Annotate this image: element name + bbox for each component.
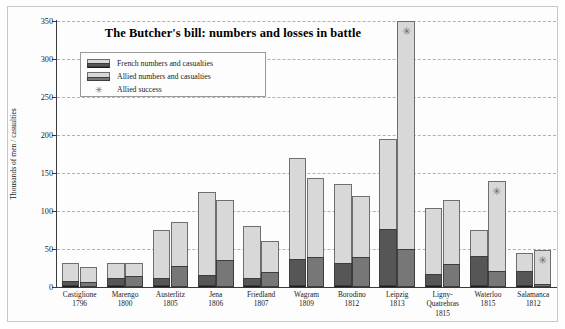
legend-label: Allied numbers and casualties: [117, 72, 211, 81]
allied-bar[interactable]: [307, 178, 325, 287]
french-bar[interactable]: [289, 158, 307, 287]
allied-bar[interactable]: [125, 263, 143, 287]
y-axis-tick-label: 50: [45, 245, 53, 254]
french-bar[interactable]: [243, 226, 261, 287]
allied-bar[interactable]: ✳: [488, 181, 506, 287]
legend-label: French numbers and casualties: [117, 59, 213, 68]
allied-success-star-icon: ✳: [538, 255, 547, 266]
battle-bar-group: ✳: [379, 21, 415, 287]
allied-casualties-segment: [80, 282, 98, 287]
allied-casualties-segment: [307, 257, 325, 287]
allied-bar[interactable]: [216, 200, 234, 287]
x-axis-line: [56, 287, 557, 288]
allied-casualties-segment: [534, 284, 552, 287]
french-bar[interactable]: [516, 253, 534, 287]
y-axis-tick-label: 350: [41, 17, 53, 26]
french-bar[interactable]: [153, 230, 171, 287]
y-axis-tick-label: 150: [41, 169, 53, 178]
allied-casualties-segment: [352, 257, 370, 287]
allied-bar[interactable]: [261, 241, 279, 287]
french-casualties-segment: [243, 278, 261, 286]
allied-bar[interactable]: ✳: [397, 21, 415, 287]
french-casualties-segment: [198, 275, 216, 286]
x-axis-label: Salamanca1812: [507, 290, 560, 309]
french-bar[interactable]: [107, 263, 125, 287]
allied-casualties-segment: [397, 249, 415, 287]
french-bar[interactable]: [425, 208, 443, 287]
allied-casualties-segment: [125, 276, 143, 287]
legend-item-french: French numbers and casualties: [87, 57, 259, 70]
chart-root: Thousands of men / casualties 0501001502…: [0, 0, 565, 329]
y-axis-tick-label: 250: [41, 93, 53, 102]
y-axis-tick-label: 200: [41, 131, 53, 140]
battle-bar-group: [425, 21, 461, 287]
battle-bar-group: ✳: [516, 21, 552, 287]
allied-swatch-icon: [87, 72, 110, 81]
french-casualties-segment: [153, 278, 171, 286]
y-axis-tick-label: 300: [41, 55, 53, 64]
battle-bar-group: [334, 21, 370, 287]
allied-success-star-icon: ✳: [402, 26, 411, 37]
y-axis-tick-label: 100: [41, 207, 53, 216]
allied-casualties-segment: [216, 260, 234, 287]
star-marker-icon: ✳: [87, 85, 110, 95]
allied-bar[interactable]: [443, 200, 461, 287]
french-bar[interactable]: [198, 192, 216, 287]
allied-bar[interactable]: ✳: [534, 250, 552, 287]
allied-bar[interactable]: [171, 222, 189, 287]
allied-bar[interactable]: [352, 196, 370, 287]
chart-legend: French numbers and casualties Allied num…: [80, 52, 266, 97]
french-casualties-segment: [62, 281, 80, 286]
battle-year: 1815: [416, 309, 469, 318]
battle-name: Salamanca: [507, 290, 560, 299]
y-axis-title: Thousands of men / casualties: [9, 108, 18, 200]
allied-casualties-segment: [171, 266, 189, 287]
french-casualties-segment: [516, 271, 534, 286]
french-bar[interactable]: [379, 139, 397, 287]
legend-label: Allied success: [117, 85, 162, 94]
allied-bar[interactable]: [80, 267, 98, 287]
allied-success-star-icon: ✳: [492, 186, 501, 197]
french-bar[interactable]: [470, 230, 488, 287]
french-casualties-segment: [334, 263, 352, 286]
french-casualties-segment: [107, 278, 125, 286]
french-swatch-icon: [87, 59, 110, 68]
french-bar[interactable]: [334, 184, 352, 287]
allied-casualties-segment: [443, 264, 461, 287]
french-casualties-segment: [289, 259, 307, 286]
legend-item-allied: Allied numbers and casualties: [87, 70, 259, 83]
french-casualties-segment: [379, 229, 397, 286]
allied-casualties-segment: [261, 272, 279, 287]
french-casualties-segment: [470, 256, 488, 286]
battle-bar-group: [289, 21, 325, 287]
battle-year: 1812: [507, 299, 560, 308]
battle-bar-group: ✳: [470, 21, 506, 287]
chart-title: The Butcher's bill: numbers and losses i…: [68, 26, 398, 41]
french-bar[interactable]: [62, 263, 80, 287]
french-casualties-segment: [425, 274, 443, 286]
allied-casualties-segment: [488, 271, 506, 287]
legend-item-allied-success: ✳ Allied success: [87, 83, 259, 96]
